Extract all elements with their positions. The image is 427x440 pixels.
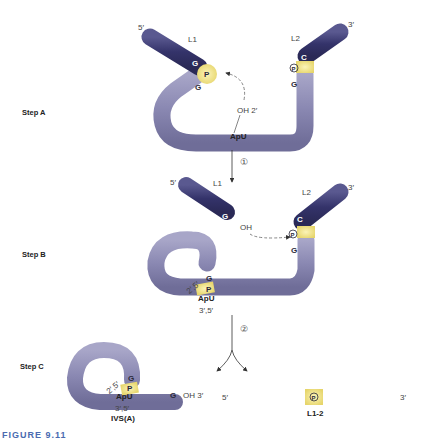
g-end-c: G: [170, 391, 176, 400]
l1-label-b: L1: [213, 179, 222, 188]
figure-caption: FIGURE 9.11: [2, 430, 67, 440]
l2-label-b: L2: [302, 188, 311, 197]
oh-leader-a: [234, 115, 240, 133]
oh-end-c: OH 3′: [183, 391, 204, 400]
exon-l1-b: [186, 185, 227, 212]
step-arrow-2-left: [217, 350, 232, 371]
step-arrow-2-label: ②: [240, 324, 248, 334]
phosphate-right-b: [297, 226, 315, 238]
g-loop-c: G: [128, 374, 134, 383]
c-right-a: C: [301, 53, 307, 62]
g-product: G: [296, 393, 302, 402]
exon-l2-a: [306, 32, 340, 56]
g-right-a: G: [291, 80, 297, 89]
l1-label-a: L1: [188, 35, 197, 44]
apu-c: ApU: [116, 392, 133, 401]
five-prime-product: 5′: [222, 393, 228, 402]
g-loop-b: G: [206, 274, 212, 283]
g-l1-b: G: [222, 212, 228, 221]
g-right-b: G: [291, 246, 297, 255]
attack-arrow-a: [226, 73, 245, 100]
phosphate-right-a: [296, 61, 314, 73]
step-a-precursor: [150, 32, 340, 143]
step-arrow-2-right: [232, 350, 247, 371]
c-right-b: C: [297, 215, 303, 224]
three-prime-a: 3′: [348, 20, 354, 29]
oh-label-a: OH 2′: [237, 106, 258, 115]
five-prime-b: 5′: [170, 178, 176, 187]
apu-a: ApU: [230, 132, 247, 141]
step-a-label: Step A: [22, 108, 46, 117]
g-upper-a: G: [192, 59, 198, 68]
step-arrow-1-label: ①: [240, 157, 248, 167]
link-35-b: 3′,5′: [199, 306, 214, 315]
ivs-label: IVS(A): [111, 414, 135, 423]
c-product: C: [327, 393, 333, 402]
step-b-intermediate: [156, 185, 340, 295]
oh-label-b: OH: [240, 223, 252, 232]
step-b-label: Step B: [22, 250, 46, 259]
p-product: P: [312, 395, 316, 401]
l1-2-label: L1-2: [307, 409, 324, 418]
g-lower-a: G: [195, 83, 201, 92]
p-right-b: P: [291, 232, 295, 238]
p-right-a: P: [292, 66, 296, 72]
l2-label-a: L2: [291, 34, 300, 43]
apu-b: ApU: [198, 294, 215, 303]
p-left-a: P: [204, 70, 210, 79]
attack-arrow-b: [250, 234, 290, 238]
link-35-c: 3′,5′: [115, 404, 130, 413]
three-prime-product: 3′: [400, 393, 406, 402]
step-c-label: Step C: [20, 362, 44, 371]
three-prime-b: 3′: [348, 183, 354, 192]
five-prime-a: 5′: [138, 23, 144, 32]
lariat-b: [156, 240, 306, 287]
p-loop-b: P: [206, 285, 212, 294]
